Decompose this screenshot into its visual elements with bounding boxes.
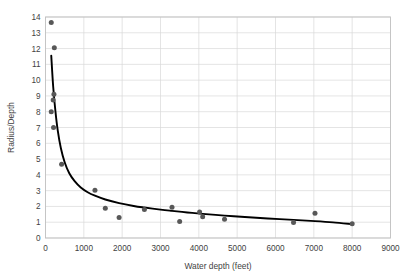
y-tick-label: 13	[31, 29, 41, 38]
y-tick-label: 9	[36, 92, 41, 101]
x-tick-label: 9000	[381, 244, 400, 253]
y-tick-label: 1	[36, 218, 41, 227]
y-tick-label: 10	[31, 76, 41, 85]
x-tick-label: 0	[43, 244, 48, 253]
y-tick-label: 12	[31, 45, 41, 54]
data-point	[117, 215, 122, 220]
y-tick-label: 7	[36, 124, 41, 133]
y-tick-label: 14	[31, 13, 41, 22]
y-tick-label: 3	[36, 187, 41, 196]
x-axis-title: Water depth (feet)	[184, 261, 251, 271]
data-point	[291, 220, 296, 225]
data-point	[51, 97, 56, 102]
scatter-plot: 01234567891011121314 0100020003000400050…	[0, 0, 412, 278]
data-point	[49, 20, 54, 25]
data-point	[59, 162, 64, 167]
y-tick-label: 11	[32, 60, 41, 69]
data-point	[92, 188, 97, 193]
data-point	[51, 125, 56, 130]
y-tick-label: 2	[36, 202, 41, 211]
x-tick-label: 8000	[343, 244, 362, 253]
x-tick-label: 5000	[228, 244, 247, 253]
data-point	[51, 92, 56, 97]
chart-container: 01234567891011121314 0100020003000400050…	[0, 0, 412, 278]
data-point	[170, 205, 175, 210]
data-point	[142, 207, 147, 212]
x-tick-label: 7000	[305, 244, 324, 253]
data-point	[350, 221, 355, 226]
y-axis-title: Radius/Depth	[6, 102, 16, 153]
data-point	[52, 45, 57, 50]
data-point	[197, 209, 202, 214]
data-point	[177, 219, 182, 224]
x-tick-label: 2000	[113, 244, 132, 253]
data-point	[103, 206, 108, 211]
y-tick-label: 6	[36, 139, 41, 148]
data-point	[200, 214, 205, 219]
chart-background	[0, 0, 412, 278]
y-tick-label: 5	[36, 155, 41, 164]
data-point	[312, 211, 317, 216]
y-tick-label: 8	[36, 108, 41, 117]
y-tick-label: 0	[36, 234, 41, 243]
x-tick-label: 1000	[75, 244, 94, 253]
data-point	[49, 109, 54, 114]
data-point	[222, 217, 227, 222]
x-tick-label: 6000	[266, 244, 285, 253]
x-tick-label: 3000	[151, 244, 170, 253]
y-tick-label: 4	[36, 171, 41, 180]
x-tick-label: 4000	[190, 244, 209, 253]
